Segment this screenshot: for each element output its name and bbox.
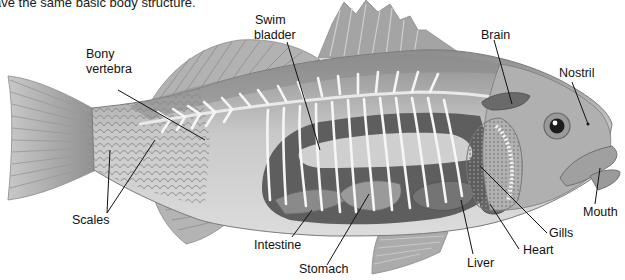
label-swim-bladder-line2: bladder [254, 28, 296, 43]
label-mouth: Mouth [583, 205, 618, 220]
label-nostril: Nostril [559, 66, 594, 81]
label-brain: Brain [481, 28, 510, 43]
label-gills: Gills [549, 226, 573, 241]
dorsal-spiny-fin [318, 0, 458, 58]
label-liver: Liver [467, 256, 494, 271]
tail-fin [8, 76, 96, 200]
label-heart: Heart [523, 243, 554, 258]
label-scales: Scales [72, 213, 110, 228]
label-swim-bladder-line1: Swim [255, 13, 286, 28]
label-stomach: Stomach [299, 262, 348, 277]
pelvic-fin [372, 231, 448, 274]
label-intestine: Intestine [254, 238, 301, 253]
fish-anatomy-illustration [0, 0, 625, 280]
label-bony-vertebra-line2: vertebra [86, 62, 132, 77]
label-bony-vertebra-line1: Bony [86, 47, 115, 62]
